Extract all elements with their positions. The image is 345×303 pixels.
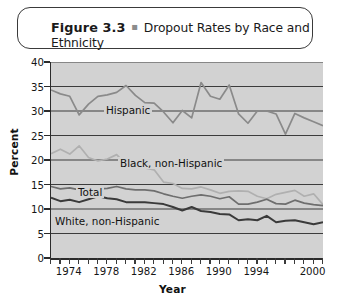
x-tick-mark [125, 258, 126, 264]
x-tick-mark [172, 258, 173, 264]
x-tick-label: 1978 [93, 266, 119, 277]
x-tick-mark [88, 258, 89, 264]
x-tick-mark [50, 258, 51, 264]
x-tick-mark [181, 258, 182, 264]
x-axis-line [50, 258, 322, 260]
y-tick-label: 15 [31, 179, 44, 190]
x-tick-mark [303, 258, 304, 264]
series-label-white: White, non-Hispanic [53, 215, 161, 227]
x-tick-mark [284, 258, 285, 264]
y-tick-label: 10 [31, 204, 44, 215]
x-tick-label: 1994 [243, 266, 269, 277]
x-tick-label: 1974 [56, 266, 82, 277]
x-tick-mark [97, 258, 98, 264]
x-tick-mark [266, 258, 267, 264]
x-tick-mark [238, 258, 239, 264]
x-tick-mark [116, 258, 117, 264]
figure-number: Figure 3.3 [51, 20, 126, 35]
x-tick-mark [228, 258, 229, 264]
figure-title: Figure 3.3 ▪ Dropout Rates by Race and E… [51, 19, 313, 52]
y-axis-ticks: 0510152025303540 [0, 50, 50, 270]
x-tick-mark [275, 258, 276, 264]
x-tick-mark [191, 258, 192, 264]
x-tick-mark [313, 258, 314, 264]
x-tick-mark [294, 258, 295, 264]
x-tick-mark [144, 258, 145, 264]
x-tick-mark [200, 258, 201, 264]
y-tick-label: 35 [31, 81, 44, 92]
x-tick-label: 1990 [206, 266, 232, 277]
chart-container: Percent 0510152025303540 Hispanic Black,… [0, 50, 345, 303]
y-tick-label: 20 [31, 155, 44, 166]
y-tick-label: 30 [31, 106, 44, 117]
series-label-black: Black, non-Hispanic [118, 157, 224, 169]
y-tick-label: 25 [31, 130, 44, 141]
x-tick-mark [209, 258, 210, 264]
series-line-hispanic [51, 83, 323, 134]
x-tick-mark [163, 258, 164, 264]
figure-title-box: Figure 3.3 ▪ Dropout Rates by Race and E… [17, 7, 313, 49]
x-tick-mark [59, 258, 60, 264]
x-tick-mark [153, 258, 154, 264]
x-tick-mark [134, 258, 135, 264]
x-tick-mark [247, 258, 248, 264]
plot-area: Hispanic Black, non-Hispanic Total White… [50, 62, 323, 258]
x-tick-label: 2000 [300, 266, 326, 277]
x-tick-mark [106, 258, 107, 264]
series-label-hispanic: Hispanic [104, 104, 152, 116]
x-axis-label: Year [0, 283, 345, 295]
y-tick-label: 40 [31, 57, 44, 68]
series-label-total: Total [76, 186, 104, 198]
x-tick-mark [78, 258, 79, 264]
x-tick-mark [69, 258, 70, 264]
x-tick-mark [219, 258, 220, 264]
x-tick-label: 1986 [168, 266, 194, 277]
x-tick-label: 1982 [131, 266, 157, 277]
x-tick-mark [322, 258, 323, 264]
bullet-icon: ▪ [129, 21, 140, 32]
x-tick-mark [256, 258, 257, 264]
